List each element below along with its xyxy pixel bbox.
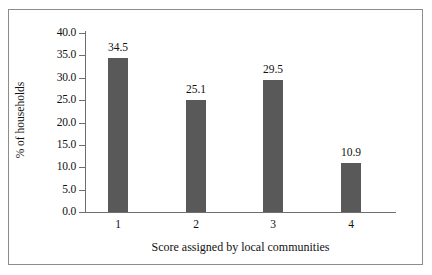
x-axis-line: [85, 212, 396, 213]
y-axis-tick-label-wrap: 30.0: [36, 72, 76, 84]
bar: [263, 80, 283, 212]
y-axis-tick-label-wrap: 40.0: [36, 27, 76, 39]
y-axis-tick-label: 0.0: [38, 206, 76, 218]
x-axis-tick-label: 1: [98, 218, 138, 230]
y-axis-tick: [79, 212, 85, 213]
x-axis-title: Score assigned by local communities: [85, 241, 396, 254]
y-axis-tick-label: 35.0: [38, 49, 76, 61]
y-axis-tick-label-wrap: 5.0: [36, 184, 76, 196]
y-axis-tick-label-wrap: 20.0: [36, 117, 76, 129]
x-axis-tick-label: 4: [331, 218, 371, 230]
x-axis-tick-label: 3: [253, 218, 293, 230]
y-axis-tick-label: 20.0: [38, 117, 76, 129]
y-axis-title: % of households: [14, 60, 26, 180]
bar-value-label: 29.5: [250, 63, 296, 75]
y-axis-tick-label-wrap: 15.0: [36, 139, 76, 151]
y-axis-tick-label: 30.0: [38, 72, 76, 84]
chart-figure: % of households 40.035.030.025.020.015.0…: [0, 0, 432, 275]
y-axis-tick-label-wrap: 10.0: [36, 161, 76, 173]
y-axis-tick-label: 15.0: [38, 139, 76, 151]
y-axis-tick-label-wrap: 25.0: [36, 94, 76, 106]
y-axis-tick-label: 25.0: [38, 94, 76, 106]
plot-area: [85, 33, 396, 212]
y-axis-tick-label-wrap: 35.0: [36, 49, 76, 61]
bar: [186, 100, 206, 212]
bar-value-label: 25.1: [173, 83, 219, 95]
y-axis-title-container: % of households: [0, 60, 40, 190]
bar-value-label: 34.5: [95, 41, 141, 53]
bar-value-label: 10.9: [328, 146, 374, 158]
y-axis-tick-label: 5.0: [38, 184, 76, 196]
bar: [108, 58, 128, 212]
x-axis-tick-label: 2: [176, 218, 216, 230]
y-axis-tick-label-wrap: 0.0: [36, 206, 76, 218]
y-axis-tick-label: 10.0: [38, 161, 76, 173]
bar: [341, 163, 361, 212]
y-axis-tick-label: 40.0: [38, 27, 76, 39]
